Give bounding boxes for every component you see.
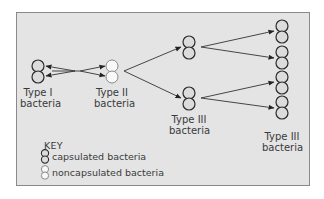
key-item-noncapsulated-label: noncapsulated bacteria (52, 167, 164, 178)
key-item-capsulated: capsulated bacteria (40, 149, 146, 164)
capsulated-bacteria-icon (40, 149, 50, 164)
type3-right-label-line2: bacteria (262, 142, 302, 153)
type2-to-type3-arrows (124, 47, 181, 98)
type1-label-line2: bacteria (20, 98, 56, 109)
type3-right-label: Type III bacteria (262, 131, 302, 153)
key-item-noncapsulated: noncapsulated bacteria (40, 165, 164, 180)
type3-mid-label: Type III bacteria (169, 114, 209, 136)
type3-right-bacteria-icon (276, 20, 288, 119)
type3-mid-label-line2: bacteria (169, 125, 209, 136)
type3-mid-bottom-bacteria-icon (183, 87, 195, 110)
type2-bacteria-icon (106, 60, 118, 83)
type1-label: Type I bacteria (20, 87, 56, 109)
type3-right-label-line1: Type III (262, 131, 302, 142)
type2-label-line1: Type II (94, 87, 130, 98)
type2-label-line2: bacteria (94, 98, 130, 109)
type2-label: Type II bacteria (94, 87, 130, 109)
type1-label-line1: Type I (20, 87, 56, 98)
type3-mid-label-line1: Type III (169, 114, 209, 125)
type3-mid-top-bacteria-icon (183, 36, 195, 59)
type1-bacteria-icon (32, 60, 44, 83)
key-item-capsulated-label: capsulated bacteria (52, 151, 146, 162)
type3-division-arrows (201, 31, 274, 108)
exchange-arrows (46, 66, 105, 76)
noncapsulated-bacteria-icon (40, 165, 50, 180)
